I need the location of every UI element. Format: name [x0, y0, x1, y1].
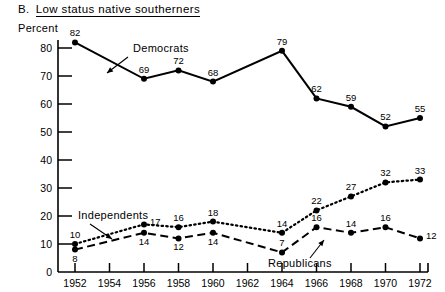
y-axis-tick-label: 0	[46, 266, 52, 278]
data-point	[210, 219, 216, 225]
y-axis-tick-label: 40	[40, 154, 52, 166]
data-point-label: 17	[150, 216, 161, 227]
axes-layer: 0102030405060708019521954195619581960196…	[40, 40, 432, 289]
data-point-label: 12	[173, 241, 184, 252]
data-point	[279, 48, 285, 54]
x-axis-tick-label: 1972	[408, 277, 432, 289]
x-axis-tick-label: 1952	[63, 277, 87, 289]
series-democrats: 826972687962595255	[70, 27, 426, 129]
data-point-label: 16	[173, 212, 184, 223]
data-point-label: 18	[208, 207, 219, 218]
y-axis-tick-label: 50	[40, 126, 52, 138]
data-point-label: 55	[415, 103, 426, 114]
data-point-label: 59	[346, 92, 357, 103]
data-point-label: 14	[208, 236, 219, 247]
data-point-label: 52	[380, 111, 391, 122]
x-axis-tick-label: 1954	[98, 277, 122, 289]
data-point	[314, 95, 320, 101]
republicans-annotation: Republicans	[268, 240, 332, 269]
data-point-label: 32	[380, 167, 391, 178]
independents-annotation-text: Independents	[78, 209, 148, 221]
x-axis-tick-label: 1960	[201, 277, 225, 289]
data-point	[417, 177, 423, 183]
x-axis-tick-label: 1956	[132, 277, 156, 289]
data-point	[348, 193, 354, 199]
data-point	[348, 230, 354, 236]
data-point-label: 7	[279, 237, 284, 248]
data-point	[417, 115, 423, 121]
data-point	[72, 241, 78, 247]
data-point	[279, 230, 285, 236]
series-line-democrats	[75, 42, 420, 126]
y-axis-tick-label: 70	[40, 70, 52, 82]
data-point	[314, 224, 320, 230]
series-line-republicans	[75, 227, 420, 252]
data-point-label: 14	[346, 218, 357, 229]
data-point	[383, 179, 389, 185]
democrats-annotation-text: Democrats	[133, 42, 189, 54]
series-layer: 8269726879625952551017161814222732338141…	[70, 27, 437, 263]
x-axis-tick-label: 1958	[167, 277, 191, 289]
data-point-label: 68	[208, 67, 219, 78]
x-axis-tick-label: 1968	[339, 277, 363, 289]
data-point-label: 22	[311, 195, 322, 206]
data-point-label: 12	[426, 230, 437, 241]
data-point-label: 14	[277, 218, 288, 229]
data-point	[176, 67, 182, 73]
y-axis-tick-label: 30	[40, 182, 52, 194]
x-axis-tick-label: 1966	[305, 277, 329, 289]
democrats-annotation-arrowhead	[107, 67, 113, 73]
x-axis-tick-label: 1962	[236, 277, 260, 289]
data-point-label: 69	[139, 64, 150, 75]
data-point-label: 72	[173, 55, 184, 66]
data-point-label: 79	[277, 36, 288, 47]
chart-container: B.Low status native southerners Percent …	[0, 0, 445, 292]
y-axis-tick-label: 80	[40, 42, 52, 54]
y-axis-tick-label: 60	[40, 98, 52, 110]
data-point-label: 14	[139, 236, 150, 247]
data-point-label: 8	[72, 253, 77, 264]
republicans-annotation-text: Republicans	[268, 257, 332, 269]
data-point	[210, 79, 216, 85]
data-point-label: 10	[70, 229, 81, 240]
data-point	[141, 221, 147, 227]
series-independents: 101716181422273233	[70, 165, 426, 247]
x-axis-tick-label: 1970	[374, 277, 398, 289]
y-axis-tick-label: 10	[40, 238, 52, 250]
data-point	[383, 224, 389, 230]
data-point	[417, 235, 423, 241]
chart-svg: 0102030405060708019521954195619581960196…	[0, 0, 445, 292]
data-point-label: 16	[311, 212, 322, 223]
data-point	[383, 123, 389, 129]
x-axis-tick-label: 1964	[270, 277, 294, 289]
y-axis-tick-label: 20	[40, 210, 52, 222]
data-point	[176, 224, 182, 230]
data-point	[279, 249, 285, 255]
data-point	[141, 76, 147, 82]
data-point	[348, 104, 354, 110]
data-point-label: 16	[380, 212, 391, 223]
data-point-label: 82	[70, 27, 81, 38]
data-point-label: 33	[415, 165, 426, 176]
data-point	[72, 39, 78, 45]
data-point-label: 62	[311, 83, 322, 94]
data-point-label: 27	[346, 181, 357, 192]
